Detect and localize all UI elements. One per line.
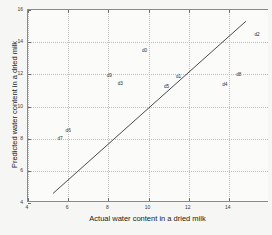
x-tick-label: 10 [145, 204, 151, 210]
data-point-label: d0 [142, 48, 148, 53]
x-tick-label: 14 [225, 204, 231, 210]
data-point-label: d2 [254, 32, 260, 37]
data-point-label: d4 [222, 81, 228, 86]
y-tick-label: 8 [20, 135, 23, 141]
data-point-label: d6 [65, 127, 71, 132]
y-tick-label: 4 [20, 199, 23, 205]
data-points-layer: d7d6d9d3d0d5d1d4d8d2 [28, 10, 268, 201]
y-axis-title: Predicted water content in a dried milk [10, 10, 19, 200]
data-point-label: d8 [236, 72, 242, 77]
x-tick-label: 6 [66, 204, 69, 210]
data-point-label: d5 [164, 84, 170, 89]
x-tick-label: 8 [106, 204, 109, 210]
chart-screenshot: d7d6d9d3d0d5d1d4d8d2 468101214 468101214… [0, 0, 272, 235]
plot-area: d7d6d9d3d0d5d1d4d8d2 [27, 9, 268, 202]
data-point-label: d9 [106, 73, 112, 78]
y-tick-label: 6 [20, 167, 23, 173]
x-tick-label: 12 [185, 204, 191, 210]
data-point-label: d7 [57, 135, 63, 140]
x-tick-label: 4 [26, 204, 29, 210]
x-axis-title: Actual water content in a dried milk [27, 214, 268, 223]
data-point-label: d3 [118, 81, 124, 86]
fit-line [28, 10, 269, 203]
data-point-label: d1 [176, 73, 182, 78]
